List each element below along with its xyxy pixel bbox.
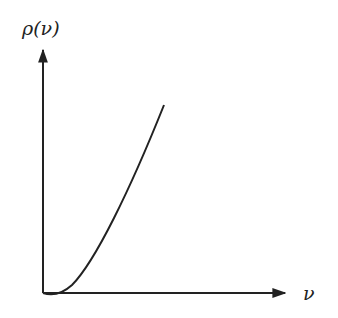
- y-axis-label: ρ(ν): [21, 17, 60, 39]
- diagram-canvas: ρ(ν) ν: [0, 0, 338, 318]
- density-curve: [43, 105, 164, 294]
- x-axis-label: ν: [303, 282, 315, 304]
